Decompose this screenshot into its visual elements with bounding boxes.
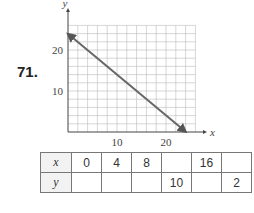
- x-cell: 4: [102, 153, 132, 173]
- x-cell: 0: [72, 153, 102, 173]
- x-axis-label: x: [209, 126, 215, 138]
- y-tick-20: 20: [52, 44, 64, 56]
- x-tick-20: 20: [161, 136, 173, 148]
- y-cell: [102, 173, 132, 193]
- y-cell: [192, 173, 222, 193]
- x-cell: 16: [192, 153, 222, 173]
- y-cell: 10: [162, 173, 192, 193]
- y-cell: [72, 173, 102, 193]
- grid: [68, 25, 195, 132]
- y-cell: 2: [222, 173, 252, 193]
- y-row-header: y: [41, 173, 72, 193]
- y-tick-10: 10: [52, 85, 64, 97]
- y-row: y 10 2: [41, 173, 252, 193]
- values-table: x 0 4 8 16 y 10 2: [40, 152, 252, 193]
- y-axis-label: y: [62, 0, 68, 9]
- y-cell: [132, 173, 162, 193]
- x-cell: [162, 153, 192, 173]
- x-tick-10: 10: [112, 136, 124, 148]
- x-cell: 8: [132, 153, 162, 173]
- x-row-header: x: [41, 153, 72, 173]
- x-cell: [222, 153, 252, 173]
- x-row: x 0 4 8 16: [41, 153, 252, 173]
- coordinate-graph: x y 10 20 10 20: [0, 0, 254, 150]
